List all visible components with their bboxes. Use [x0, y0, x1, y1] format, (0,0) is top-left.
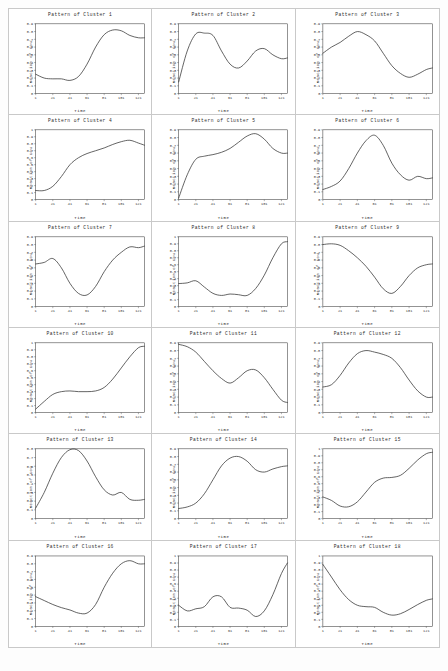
svg-text:41: 41	[211, 309, 215, 313]
svg-text:0.1: 0.1	[170, 190, 176, 194]
panel-6: Pattern of Cluster 6Reaction of CowTime0…	[296, 115, 439, 220]
svg-text:0.4: 0.4	[313, 380, 319, 384]
svg-text:21: 21	[338, 415, 342, 419]
svg-text:121: 121	[423, 629, 429, 633]
svg-text:0.3: 0.3	[170, 69, 176, 73]
svg-text:0.8: 0.8	[27, 243, 33, 247]
svg-text:0.7: 0.7	[27, 570, 33, 574]
svg-text:81: 81	[389, 415, 393, 419]
plot-area: 00.10.20.30.40.50.60.70.80.9121416181101…	[152, 434, 294, 539]
svg-text:1: 1	[178, 96, 180, 100]
svg-text:0.3: 0.3	[170, 175, 176, 179]
svg-text:0.2: 0.2	[27, 76, 33, 80]
svg-text:61: 61	[85, 521, 89, 525]
svg-text:41: 41	[68, 521, 72, 525]
svg-text:0.4: 0.4	[170, 167, 176, 171]
svg-text:121: 121	[135, 202, 141, 206]
svg-text:0.6: 0.6	[27, 45, 33, 49]
svg-text:0.1: 0.1	[170, 298, 176, 302]
svg-text:0.8: 0.8	[27, 447, 33, 451]
svg-text:41: 41	[211, 521, 215, 525]
svg-text:21: 21	[51, 415, 55, 419]
svg-text:1: 1	[178, 629, 180, 633]
svg-text:21: 21	[51, 202, 55, 206]
svg-text:0: 0	[174, 198, 176, 202]
svg-text:0.4: 0.4	[313, 596, 319, 600]
svg-text:0.1: 0.1	[27, 297, 33, 301]
svg-text:0.8: 0.8	[170, 249, 176, 253]
svg-text:1: 1	[321, 96, 323, 100]
svg-text:0.6: 0.6	[170, 263, 176, 267]
svg-text:0.3: 0.3	[170, 603, 176, 607]
svg-text:41: 41	[211, 202, 215, 206]
svg-text:0.3: 0.3	[27, 601, 33, 605]
svg-text:121: 121	[279, 629, 285, 633]
chart-panel: Pattern of Cluster 3Reaction of CowTime0…	[296, 9, 439, 115]
figure-sheet: Pattern of Cluster 1Reaction of CowTime0…	[0, 0, 448, 671]
plot-area: 00.10.20.30.40.50.60.70.80.9121416181101…	[296, 328, 439, 433]
svg-text:101: 101	[261, 415, 267, 419]
plot-area: 00.10.20.30.40.50.60.70.80.9112141618110…	[296, 541, 439, 647]
svg-text:121: 121	[279, 415, 285, 419]
svg-text:0.7: 0.7	[170, 144, 176, 148]
svg-text:1: 1	[35, 202, 37, 206]
svg-text:121: 121	[135, 96, 141, 100]
svg-text:61: 61	[228, 309, 232, 313]
svg-text:21: 21	[338, 309, 342, 313]
svg-text:61: 61	[372, 309, 376, 313]
plot-area: 00.10.20.30.40.50.60.70.80.9121416181101…	[9, 9, 151, 114]
svg-text:0.1: 0.1	[170, 509, 176, 513]
svg-text:0.5: 0.5	[27, 163, 33, 167]
plot-area: 00.10.20.30.40.50.60.70.80.9112141618110…	[9, 115, 151, 220]
svg-text:0.3: 0.3	[313, 175, 319, 179]
svg-text:0.2: 0.2	[313, 289, 319, 293]
svg-text:0.3: 0.3	[313, 603, 319, 607]
svg-text:0.9: 0.9	[27, 554, 33, 558]
svg-text:0.6: 0.6	[170, 152, 176, 156]
svg-text:0.7: 0.7	[313, 468, 319, 472]
svg-text:0.9: 0.9	[313, 561, 319, 565]
svg-text:101: 101	[261, 309, 267, 313]
svg-text:81: 81	[245, 309, 249, 313]
svg-text:41: 41	[355, 521, 359, 525]
svg-text:0.8: 0.8	[313, 349, 319, 353]
svg-text:81: 81	[389, 629, 393, 633]
svg-text:0.1: 0.1	[313, 403, 319, 407]
svg-text:0.4: 0.4	[170, 277, 176, 281]
svg-text:0.8: 0.8	[170, 136, 176, 140]
svg-text:61: 61	[372, 415, 376, 419]
svg-text:81: 81	[102, 629, 106, 633]
svg-text:0.5: 0.5	[27, 474, 33, 478]
svg-text:1: 1	[318, 447, 320, 451]
svg-text:0.5: 0.5	[170, 478, 176, 482]
svg-text:0.8: 0.8	[313, 136, 319, 140]
svg-text:0.6: 0.6	[313, 152, 319, 156]
panel-2: Pattern of Cluster 2Reaction of CowTime0…	[152, 9, 294, 114]
svg-text:121: 121	[279, 309, 285, 313]
svg-text:121: 121	[135, 521, 141, 525]
svg-text:0.5: 0.5	[27, 585, 33, 589]
svg-text:41: 41	[355, 309, 359, 313]
svg-text:21: 21	[194, 309, 198, 313]
svg-text:0.3: 0.3	[170, 388, 176, 392]
svg-text:61: 61	[372, 96, 376, 100]
svg-text:41: 41	[211, 415, 215, 419]
svg-text:0.5: 0.5	[313, 589, 319, 593]
svg-text:0.9: 0.9	[313, 128, 319, 132]
plot-area: 00.10.20.30.40.50.60.70.80.9121416181101…	[296, 222, 439, 327]
svg-text:0.6: 0.6	[27, 369, 33, 373]
chart-panel: Pattern of Cluster 6Reaction of CowTime0…	[296, 115, 439, 221]
svg-text:0.7: 0.7	[313, 357, 319, 361]
svg-text:21: 21	[338, 202, 342, 206]
plot-area: 00.10.20.30.40.50.60.70.80.9121416181101…	[296, 115, 439, 220]
chart-panel: Pattern of Cluster 10Reaction of CowTime…	[9, 328, 152, 434]
svg-text:0.2: 0.2	[27, 397, 33, 401]
chart-panel: Pattern of Cluster 2Reaction of CowTime0…	[152, 9, 295, 115]
svg-text:0.2: 0.2	[170, 502, 176, 506]
svg-text:101: 101	[118, 415, 124, 419]
svg-text:0.9: 0.9	[27, 348, 33, 352]
panel-14: Pattern of Cluster 14Reaction of CowTime…	[152, 434, 294, 539]
svg-text:0.8: 0.8	[313, 461, 319, 465]
svg-text:0.7: 0.7	[27, 250, 33, 254]
svg-text:1: 1	[321, 415, 323, 419]
